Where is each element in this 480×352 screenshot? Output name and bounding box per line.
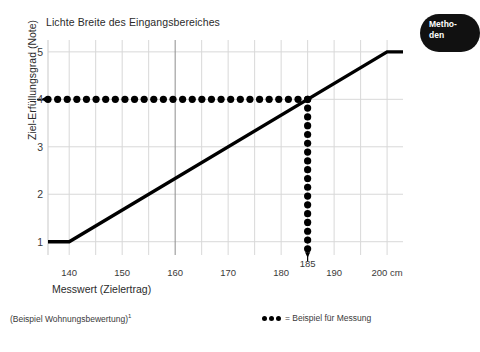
- legend-dot-symbol: [262, 316, 281, 321]
- y-axis-title: Ziel-Erfüllungsgrad (Note): [26, 0, 38, 160]
- x-tick-label: 180: [273, 267, 289, 278]
- x-tick-label: 160: [167, 267, 183, 278]
- legend-dot: [262, 316, 267, 321]
- chart-legend: = Beispiel für Messung: [262, 313, 371, 323]
- y-tick-label: 2: [21, 188, 43, 200]
- footnote-text: (Beispiel Wohnungsbewertung): [10, 314, 128, 324]
- footnote: (Beispiel Wohnungsbewertung)1: [10, 313, 131, 324]
- legend-dot: [276, 316, 281, 321]
- x-tick-label: 200 cm: [372, 267, 403, 278]
- callout-line-1: Metho-: [429, 19, 480, 30]
- methoden-callout-badge[interactable]: Metho- den: [420, 14, 480, 52]
- legend-dot: [269, 316, 274, 321]
- x-tick-label: 140: [61, 267, 77, 278]
- x-tick-label: 170: [220, 267, 236, 278]
- y-tick-label: 1: [21, 236, 43, 248]
- x-tick-label: 150: [114, 267, 130, 278]
- legend-label: = Beispiel für Messung: [285, 313, 371, 323]
- x-tick-label: 185: [300, 258, 316, 269]
- footnote-marker: 1: [128, 313, 131, 319]
- x-tick-label: 190: [326, 267, 342, 278]
- plot-canvas: [48, 40, 403, 255]
- plot-area: [48, 40, 403, 255]
- x-axis-title: Messwert (Zielertrag): [52, 283, 151, 295]
- callout-line-2: den: [429, 30, 480, 41]
- chart-title: Lichte Breite des Eingangsbereiches: [46, 16, 220, 28]
